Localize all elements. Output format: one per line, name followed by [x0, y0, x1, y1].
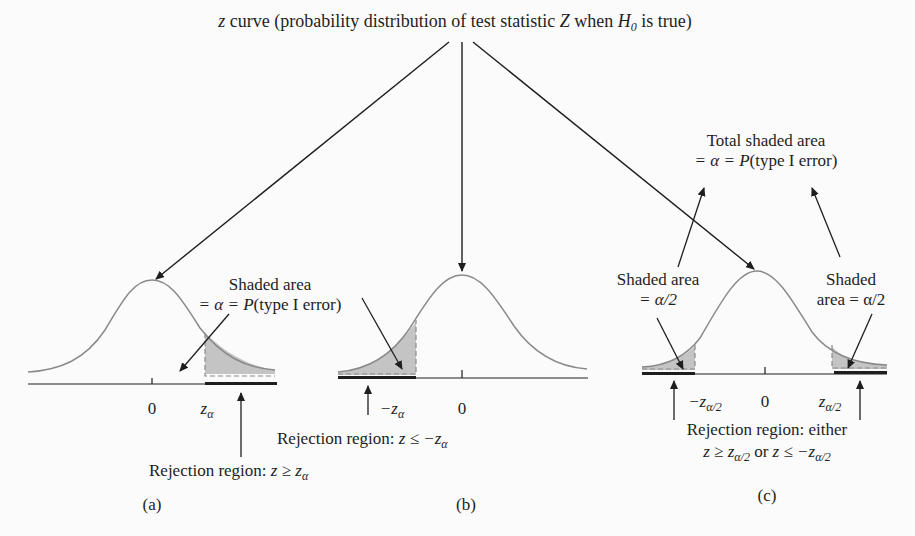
panel-b-caption: (b)	[456, 495, 476, 515]
title-h: H	[618, 11, 631, 31]
panel-a-crit-z: z	[201, 399, 208, 418]
panel-c-left-crit-z: −z	[688, 392, 706, 411]
panel-a-shade-eq: = α =	[199, 295, 244, 314]
panel-c-left-shade-line2: = α/2	[617, 290, 700, 310]
panel-a-crit-sub: α	[207, 407, 213, 421]
panel-a-shaded-area	[205, 333, 275, 374]
panel-a-rejection-label: Rejection region: z ≥ zα	[149, 461, 308, 481]
title-text: curve (probability distribution of test …	[225, 11, 559, 31]
panel-c-right-shade-line1: Shaded	[817, 270, 886, 290]
panel-b-rejection-sub: α	[441, 437, 447, 451]
title-z: z	[218, 11, 225, 31]
panel-c-total-line1: Total shaded area	[695, 131, 838, 151]
title-stat: Z	[560, 11, 570, 31]
panel-a-rejection-expr: z ≥ z	[271, 461, 302, 480]
panel-c-left-crit-sub: α/2	[706, 400, 722, 414]
panel-b-zero-label: 0	[458, 399, 467, 419]
panel-c-right-crit-sub: α/2	[825, 400, 841, 414]
panel-c-rejection-a: z ≥ z	[703, 442, 734, 461]
panel-c-total-label: Total shaded area = α = P(type I error)	[695, 131, 838, 171]
panel-c-rejection-line2: z ≥ zα/2 or z ≤ −zα/2	[703, 442, 831, 462]
panel-b-crit-label: −zα	[380, 399, 404, 419]
panel-c-rejection-line1: Rejection region: either	[687, 420, 848, 440]
panel-c-rejection-b: z ≤ −z	[773, 442, 816, 461]
figure-title: z curve (probability distribution of tes…	[218, 11, 691, 31]
panel-c-right-shade-line2: area = α/2	[817, 290, 886, 310]
panel-b-rejection-expr: z ≤ −z	[399, 429, 442, 448]
panel-a-crit-label: zα	[201, 399, 214, 419]
panel-b-crit-sub: α	[398, 407, 404, 421]
panel-b-curve	[338, 275, 587, 372]
panel-a-shade-label: Shaded area = α = P(type I error)	[199, 275, 342, 315]
panel-b-rejection-label: Rejection region: z ≤ −zα	[277, 429, 448, 449]
panel-c-left-crit-label: −zα/2	[688, 392, 722, 412]
title-suffix: is true)	[637, 11, 692, 31]
panel-b-shaded-area	[338, 322, 416, 375]
title-arrows	[156, 42, 754, 279]
panel-a-shade-p: P	[243, 295, 253, 314]
panel-c-right-shaded-area	[832, 347, 887, 369]
panel-a-rejection-sub: α	[302, 469, 308, 483]
panel-a-zero-label: 0	[148, 399, 157, 419]
panel-c-total-line2: = α = P(type I error)	[695, 151, 838, 171]
title-when: when	[570, 11, 618, 31]
panel-a-shade-line1: Shaded area	[199, 275, 342, 295]
panel-c-rejection-b-sub: α/2	[815, 450, 831, 464]
panel-c-zero-label: 0	[761, 392, 770, 412]
panel-a-shade-post: (type I error)	[254, 295, 342, 314]
panel-a-rejection-pre: Rejection region:	[149, 461, 271, 480]
panel-c-total-p: P	[739, 151, 749, 170]
panel-c-right-crit-z: z	[819, 392, 826, 411]
panel-c-right-shade-label: Shaded area = α/2	[817, 270, 886, 310]
panel-c-caption: (c)	[758, 486, 777, 506]
panel-b-rejection-pre: Rejection region:	[277, 429, 399, 448]
panel-a-caption: (a)	[143, 495, 162, 515]
panel-c-total-eq: = α =	[695, 151, 740, 170]
panel-c-right-crit-label: zα/2	[819, 392, 841, 412]
panel-c-left-shade-line1: Shaded area	[617, 270, 700, 290]
panel-c-rejection-or: or	[750, 442, 773, 461]
panel-b-crit-z: −z	[380, 399, 398, 418]
panel-c-left-shade-label: Shaded area = α/2	[617, 270, 700, 310]
panel-a-shade-line2: = α = P(type I error)	[199, 295, 342, 315]
panel-c-total-post: (type I error)	[750, 151, 838, 170]
panel-b-plot	[338, 275, 588, 415]
panel-c-rejection-a-sub: α/2	[734, 450, 750, 464]
